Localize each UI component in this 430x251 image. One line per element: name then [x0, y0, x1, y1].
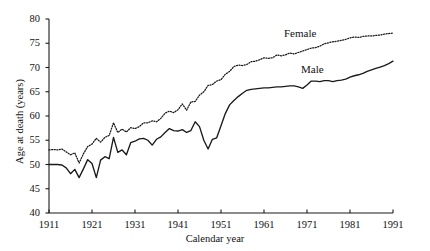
- x-tick-label: 1981: [330, 219, 370, 230]
- x-tick-label: 1921: [72, 219, 112, 230]
- x-axis-title: Calendar year: [0, 233, 430, 244]
- x-axis-tick-labels: 191119211931194119511961197119811991: [0, 0, 430, 251]
- x-tick-label: 1971: [287, 219, 327, 230]
- y-axis-title: Age at death (years): [14, 57, 25, 187]
- x-tick-label: 1941: [158, 219, 198, 230]
- x-tick-label: 1911: [29, 219, 69, 230]
- life-expectancy-chart: 404550556065707580 191119211931194119511…: [0, 0, 430, 251]
- series-label-female: Female: [284, 27, 316, 39]
- x-tick-label: 1991: [373, 219, 413, 230]
- x-tick-label: 1931: [115, 219, 155, 230]
- series-label-male: Male: [301, 63, 324, 75]
- x-tick-label: 1951: [201, 219, 241, 230]
- x-tick-label: 1961: [244, 219, 284, 230]
